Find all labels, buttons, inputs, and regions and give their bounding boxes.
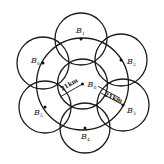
station-dots-layer: [42, 38, 125, 130]
station-dot-b1: [80, 38, 83, 41]
station-dot-b4: [84, 127, 87, 130]
station-label-b4: B4: [80, 132, 90, 142]
station-dot-b5: [44, 106, 47, 109]
station-dot-b2: [120, 59, 123, 62]
diagram-canvas: 21km21km B1B2B3B4B5B6B0: [0, 0, 164, 164]
station-dot-b6: [42, 62, 45, 65]
station-dot-b3: [122, 104, 125, 107]
station-label-b3: B3: [126, 106, 136, 116]
station-dot-b0: [81, 83, 84, 86]
station-label-b0: B0: [87, 80, 97, 90]
dimension-text-left-radius: 21km: [59, 76, 79, 92]
station-label-b2: B2: [126, 57, 136, 67]
coverage-diagram: 21km21km B1B2B3B4B5B6B0: [0, 0, 164, 164]
station-label-b1: B1: [75, 26, 85, 36]
station-label-b5: B5: [33, 108, 43, 118]
dimension-text-right-radius: 21km: [104, 90, 125, 104]
station-label-b6: B6: [30, 56, 40, 66]
